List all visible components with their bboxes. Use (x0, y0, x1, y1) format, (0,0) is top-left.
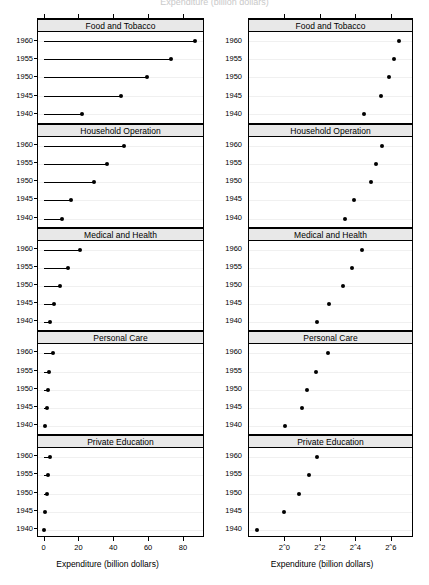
data-point[interactable] (379, 94, 383, 98)
reference-line (249, 164, 412, 165)
y-axis-tick (34, 266, 37, 267)
reference-line (38, 372, 203, 373)
data-point[interactable] (51, 351, 55, 355)
data-point[interactable] (369, 180, 373, 184)
reference-line (249, 372, 412, 373)
data-point[interactable] (43, 510, 47, 514)
y-axis-label-1945: 1945 (3, 194, 33, 203)
data-point[interactable] (314, 370, 318, 374)
y-axis-label-1960: 1960 (216, 451, 242, 460)
data-point[interactable] (45, 406, 49, 410)
y-axis-label-1950: 1950 (3, 176, 33, 185)
reference-line (38, 475, 203, 476)
data-point[interactable] (78, 248, 82, 252)
data-point[interactable] (343, 217, 347, 221)
x-axis-tick (78, 537, 79, 541)
data-point[interactable] (315, 320, 319, 324)
data-point[interactable] (46, 388, 50, 392)
data-point[interactable] (145, 75, 149, 79)
data-point[interactable] (392, 57, 396, 61)
y-axis-label-1960: 1960 (216, 243, 242, 252)
reference-line (249, 219, 412, 220)
y-axis-label-1940: 1940 (216, 420, 242, 429)
data-point[interactable] (47, 370, 51, 374)
y-axis-label-1955: 1955 (3, 365, 33, 374)
data-point[interactable] (315, 455, 319, 459)
data-point[interactable] (42, 528, 46, 532)
y-axis-label-1955: 1955 (3, 261, 33, 270)
data-point[interactable] (300, 406, 304, 410)
x-axis-tick-label: 0 (41, 543, 45, 552)
y-axis-tick (34, 284, 37, 285)
dropline-segment (44, 200, 71, 201)
x-axis-tick-top (44, 14, 45, 18)
data-point[interactable] (326, 351, 330, 355)
y-axis-label-1945: 1945 (3, 505, 33, 514)
y-axis-label-1955: 1955 (216, 469, 242, 478)
data-point[interactable] (360, 248, 364, 252)
data-point[interactable] (283, 424, 287, 428)
y-axis-tick (34, 217, 37, 218)
data-point[interactable] (80, 112, 84, 116)
panel-food-and-tobacco: Food and Tobacco (249, 19, 412, 123)
data-point[interactable] (48, 455, 52, 459)
data-point[interactable] (69, 198, 73, 202)
data-point[interactable] (58, 284, 62, 288)
data-point[interactable] (374, 162, 378, 166)
data-point[interactable] (255, 528, 259, 532)
reference-line (38, 512, 203, 513)
y-axis-label-1950: 1950 (3, 280, 33, 289)
data-point[interactable] (46, 473, 50, 477)
data-point[interactable] (169, 57, 173, 61)
data-point[interactable] (297, 492, 301, 496)
data-point[interactable] (45, 492, 49, 496)
x-axis-tick-top (320, 14, 321, 18)
y-axis-label-1940: 1940 (216, 212, 242, 221)
y-axis-label-1955: 1955 (216, 54, 242, 63)
data-point[interactable] (193, 39, 197, 43)
y-axis-label-1950: 1950 (3, 72, 33, 81)
data-point[interactable] (352, 198, 356, 202)
y-axis-label-1945: 1945 (3, 90, 33, 99)
data-point[interactable] (282, 510, 286, 514)
y-axis-label-1960: 1960 (216, 139, 242, 148)
dropline-segment (44, 164, 108, 165)
panel-household-operation: Household Operation (38, 123, 203, 227)
data-point[interactable] (66, 266, 70, 270)
reference-line (249, 390, 412, 391)
y-axis-tick (34, 302, 37, 303)
y-axis-tick (34, 492, 37, 493)
data-point[interactable] (122, 144, 126, 148)
x-axis-tick-label: 60 (144, 543, 152, 552)
data-point[interactable] (92, 180, 96, 184)
data-point[interactable] (305, 388, 309, 392)
reference-line (249, 512, 412, 513)
reference-line (249, 353, 412, 354)
data-point[interactable] (380, 144, 384, 148)
data-point[interactable] (387, 75, 391, 79)
data-point[interactable] (397, 39, 401, 43)
reference-line (249, 200, 412, 201)
data-point[interactable] (105, 162, 109, 166)
data-point[interactable] (350, 266, 354, 270)
y-axis-label-1940: 1940 (3, 420, 33, 429)
data-point[interactable] (43, 424, 47, 428)
data-point[interactable] (362, 112, 366, 116)
x-axis-tick-label: 20 (74, 543, 82, 552)
data-point[interactable] (341, 284, 345, 288)
y-axis-tick (34, 40, 37, 41)
data-point[interactable] (119, 94, 123, 98)
data-point[interactable] (307, 473, 311, 477)
data-point[interactable] (60, 217, 64, 221)
data-point[interactable] (327, 302, 331, 306)
x-axis-tick-label: 80 (179, 543, 187, 552)
reference-line (249, 114, 412, 115)
data-point[interactable] (48, 320, 52, 324)
y-axis-tick (34, 370, 37, 371)
y-axis-tick (34, 473, 37, 474)
y-axis-label-1945: 1945 (216, 90, 242, 99)
reference-line (38, 353, 203, 354)
data-point[interactable] (52, 302, 56, 306)
x-axis-tick (391, 537, 392, 541)
dropline-segment (44, 59, 172, 60)
